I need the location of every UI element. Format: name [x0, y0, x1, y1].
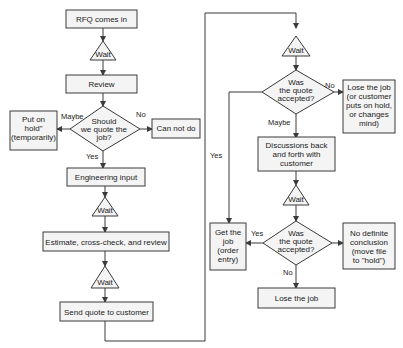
wait2-label: Wait: [97, 206, 113, 215]
lose1-line4: or changes: [349, 110, 389, 119]
hold-line1: Put on: [22, 115, 45, 124]
edge-yes-getjob: [229, 92, 262, 223]
send-quote-label: Send quote to customer: [64, 308, 149, 317]
label-maybe1: Maybe: [61, 112, 84, 121]
getjob-line3: (order: [217, 246, 239, 255]
node-wait3: Wait: [91, 266, 119, 288]
node-review: Review: [66, 75, 137, 93]
node-get-job: Get the job (order entry): [210, 223, 246, 270]
flowchart: RFQ comes in Wait Review Should we quote…: [0, 0, 403, 348]
node-put-on-hold: Put on hold" (temporarily): [10, 111, 57, 150]
node-lose-job-2: Lose the job: [258, 288, 335, 308]
node-rfq: RFQ comes in: [66, 10, 137, 28]
lose1-line2: (or customer: [347, 92, 392, 101]
label-yes2: Yes: [210, 151, 222, 160]
label-no3: No: [283, 268, 293, 277]
engineering-label: Engineering input: [75, 173, 138, 182]
accepted2-line3: accepted?: [278, 245, 315, 254]
discuss-line3: customer: [280, 159, 313, 168]
accepted1-line3: accepted?: [278, 94, 315, 103]
label-maybe2: Maybe: [268, 118, 291, 127]
node-wait5: Wait: [283, 185, 309, 205]
lose1-line3: puts on hold,: [346, 101, 392, 110]
wait3-label: Wait: [97, 278, 113, 287]
discuss-line1: Discussions back: [266, 141, 329, 150]
discuss-line2: and forth with: [272, 150, 320, 159]
rfq-label: RFQ comes in: [76, 15, 127, 24]
hold-line3: (temporarily): [11, 133, 56, 142]
getjob-line1: Get the: [215, 228, 242, 237]
node-can-not-do: Can not do: [152, 119, 200, 138]
node-wait2: Wait: [92, 197, 118, 216]
noconc-line3: (move file: [352, 247, 387, 256]
hold-line2: hold": [25, 124, 43, 133]
label-no1: No: [136, 110, 146, 119]
label-yes1: Yes: [86, 152, 98, 161]
wait5-label: Wait: [288, 195, 304, 204]
node-wait1: Wait: [90, 41, 116, 60]
lose2-label: Lose the job: [275, 294, 319, 303]
noconc-line4: to "hold"): [353, 256, 386, 265]
label-yes3: Yes: [251, 229, 263, 238]
node-accepted2: Was the quote accepted?: [263, 221, 332, 265]
getjob-line4: entry): [218, 255, 239, 264]
node-accepted1: Was the quote accepted?: [262, 70, 334, 114]
should-quote-line3: job?: [95, 133, 112, 142]
review-label: Review: [88, 80, 114, 89]
wait1-label: Wait: [95, 50, 111, 59]
lose1-line5: mind): [359, 119, 379, 128]
node-no-conclusion: No definite conclusion (move file to "ho…: [343, 223, 395, 269]
node-estimate: Estimate, cross-check, and review: [43, 232, 169, 251]
node-discussions: Discussions back and forth with customer: [258, 137, 335, 171]
estimate-label: Estimate, cross-check, and review: [45, 238, 167, 247]
node-wait4: Wait: [282, 36, 310, 56]
node-send-quote: Send quote to customer: [60, 302, 153, 321]
lose1-line1: Lose the job: [347, 83, 391, 92]
can-not-do-label: Can not do: [156, 124, 196, 133]
noconc-line2: conclusion: [350, 238, 388, 247]
label-no2: No: [325, 81, 335, 90]
node-lose-job-1: Lose the job (or customer puts on hold, …: [343, 80, 395, 133]
noconc-line1: No definite: [350, 229, 389, 238]
getjob-line2: job: [222, 237, 234, 246]
wait4-label: Wait: [288, 46, 304, 55]
node-engineering: Engineering input: [67, 168, 145, 186]
